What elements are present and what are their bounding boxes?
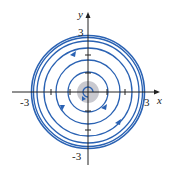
y-axis-label: y: [78, 9, 83, 20]
x-tick-3: 3: [144, 97, 150, 108]
arrow-icon: [115, 119, 121, 125]
y-tick-neg3: -3: [72, 151, 81, 162]
x-tick-neg3: -3: [20, 97, 29, 108]
phase-portrait: [0, 0, 172, 179]
y-axis-arrow-icon: [86, 12, 91, 18]
x-axis-label: x: [157, 95, 162, 106]
y-tick-3: 3: [78, 27, 84, 38]
